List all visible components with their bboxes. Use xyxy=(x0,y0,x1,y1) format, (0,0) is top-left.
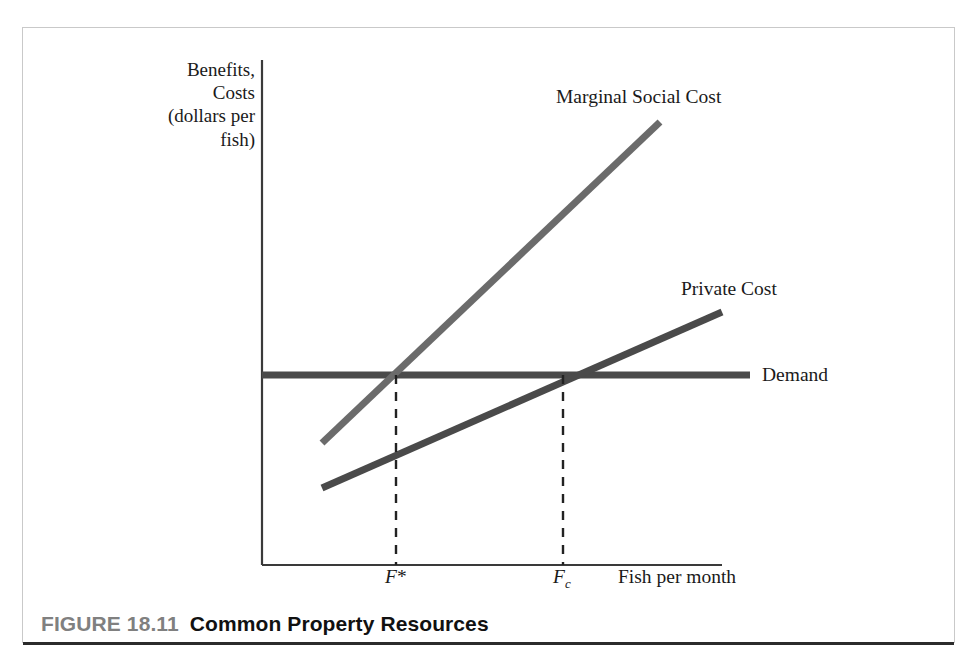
caption-bottom-rule xyxy=(23,642,954,645)
figure-caption-number: FIGURE 18.11 xyxy=(41,612,179,636)
y-axis-label: Benefits, Costs (dollars per fish) xyxy=(120,58,255,151)
marginal-social-cost-label: Marginal Social Cost xyxy=(556,85,721,109)
f-c-letter: F xyxy=(553,566,565,587)
figure-page: Benefits, Costs (dollars per fish) Margi… xyxy=(0,0,978,650)
x-axis-label: Fish per month xyxy=(618,565,736,589)
figure-caption: FIGURE 18.11 Common Property Resources xyxy=(23,606,954,642)
f-star-letter: F xyxy=(385,566,397,587)
private-cost-label: Private Cost xyxy=(681,277,777,301)
demand-label: Demand xyxy=(762,363,828,387)
figure-caption-title: Common Property Resources xyxy=(190,612,489,636)
f-star-asterisk: * xyxy=(397,566,407,587)
f-star-tick-label: F* xyxy=(385,565,407,589)
f-c-tick-label: Fc xyxy=(553,565,571,592)
marginal-social-cost-curve xyxy=(322,122,660,443)
private-cost-curve xyxy=(322,312,722,488)
f-c-subscript: c xyxy=(565,576,571,591)
